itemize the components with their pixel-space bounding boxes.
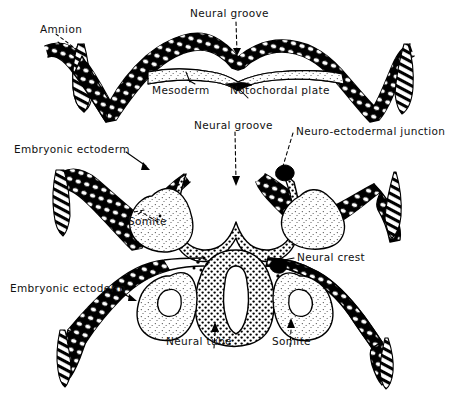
somite-cavity-left [158, 289, 182, 316]
label-neural-tube: Neural tube [166, 336, 232, 347]
label-mesoderm: Mesoderm [152, 85, 210, 96]
label-embryonic-ectoderm-mid: Embryonic ectoderm [14, 144, 130, 155]
somite-cavity-right [289, 289, 313, 316]
leader-neural-groove-mid [235, 132, 236, 180]
panel-bottom-drawing [55, 250, 393, 389]
label-neural-groove-top: Neural groove [190, 8, 269, 19]
label-neuro-ectodermal-junction: Neuro-ectodermal junction [296, 126, 445, 137]
amnion-right-mid [385, 172, 401, 238]
arrowhead-ectoderm-bottom [128, 294, 137, 301]
leader-neural-groove-top [236, 22, 237, 52]
label-somite-mid: Somite [128, 216, 167, 227]
label-neural-crest: Neural crest [297, 252, 365, 263]
label-embryonic-ectoderm-bottom: Embryonic ectoderm [10, 283, 126, 294]
label-neural-groove-mid: Neural groove [194, 120, 273, 131]
label-somite-bottom: Somite [272, 336, 311, 347]
label-amnion: Amnion [40, 24, 82, 35]
neuro-ectodermal-junction-knot [276, 165, 295, 181]
label-notochordal-plate: Notochordal plate [230, 85, 330, 96]
neurulation-figure: Amnion Neural groove Mesoderm Notochorda… [0, 0, 453, 400]
arrowhead-neural-groove-mid [232, 176, 240, 186]
somite-bottom-left [137, 273, 197, 341]
leader-neuro-ectodermal-junction [283, 133, 293, 166]
neural-tube-lumen [224, 266, 249, 334]
